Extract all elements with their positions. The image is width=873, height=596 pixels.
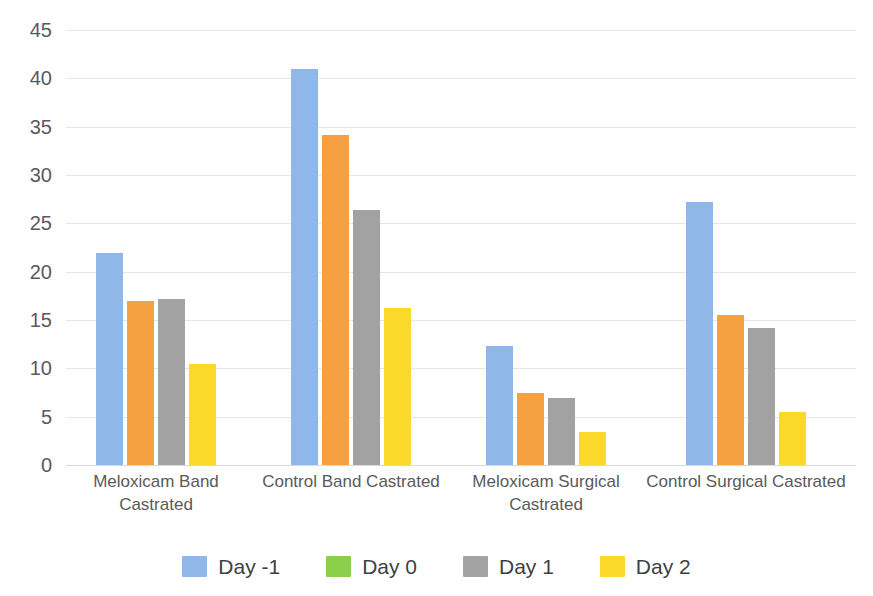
bar-group bbox=[686, 30, 810, 465]
bar bbox=[748, 328, 775, 465]
legend-swatch-icon bbox=[600, 556, 625, 577]
bar-group bbox=[486, 30, 610, 465]
bar bbox=[322, 135, 349, 465]
chart-legend: Day -1Day 0Day 1Day 2 bbox=[0, 556, 873, 577]
x-axis-group-label-line: Control Surgical Castrated bbox=[646, 470, 846, 493]
legend-label: Day -1 bbox=[218, 556, 280, 577]
y-axis-tick-label: 40 bbox=[30, 68, 52, 88]
y-axis-tick-label: 35 bbox=[30, 117, 52, 137]
x-axis-group-label: Control Surgical Castrated bbox=[646, 470, 846, 493]
x-axis-group-label-line: Meloxicam Band Castrated bbox=[56, 470, 256, 516]
y-axis-tick-label: 5 bbox=[41, 407, 52, 427]
bar bbox=[189, 364, 216, 466]
bar bbox=[96, 253, 123, 465]
legend-item[interactable]: Day 0 bbox=[326, 556, 417, 577]
x-axis-group-label: Control Band Castrated bbox=[251, 470, 451, 493]
y-axis-tick-label: 45 bbox=[30, 20, 52, 40]
legend-item[interactable]: Day 2 bbox=[600, 556, 691, 577]
y-axis-tick-label: 15 bbox=[30, 310, 52, 330]
legend-label: Day 0 bbox=[362, 556, 417, 577]
bar bbox=[291, 69, 318, 465]
bar bbox=[717, 315, 744, 465]
x-axis-group-label: Meloxicam SurgicalCastrated bbox=[446, 470, 646, 516]
bar bbox=[353, 210, 380, 465]
bar bbox=[158, 299, 185, 465]
plot-area: 051015202530354045 bbox=[66, 30, 856, 465]
legend-item[interactable]: Day -1 bbox=[182, 556, 280, 577]
y-axis-tick-label: 0 bbox=[41, 455, 52, 475]
gridline: 0 bbox=[66, 465, 856, 466]
bar-groups bbox=[66, 30, 856, 465]
bar bbox=[127, 301, 154, 465]
bar bbox=[384, 308, 411, 465]
bar bbox=[548, 398, 575, 465]
y-axis-tick-label: 25 bbox=[30, 213, 52, 233]
legend-label: Day 1 bbox=[499, 556, 554, 577]
legend-label: Day 2 bbox=[636, 556, 691, 577]
x-axis-group-label-line: Castrated bbox=[446, 493, 646, 516]
legend-item[interactable]: Day 1 bbox=[463, 556, 554, 577]
bar-group bbox=[96, 30, 220, 465]
x-axis-group-label-line: Control Band Castrated bbox=[251, 470, 451, 493]
legend-swatch-icon bbox=[463, 556, 488, 577]
bar bbox=[486, 346, 513, 465]
x-axis-group-label-line: Meloxicam Surgical bbox=[446, 470, 646, 493]
x-axis-group-label: Meloxicam Band Castrated bbox=[56, 470, 256, 516]
bar-group bbox=[291, 30, 415, 465]
y-axis-tick-label: 10 bbox=[30, 358, 52, 378]
bar bbox=[579, 432, 606, 465]
y-axis-tick-label: 30 bbox=[30, 165, 52, 185]
x-axis-labels: Meloxicam Band CastratedControl Band Cas… bbox=[66, 470, 856, 526]
bar bbox=[779, 412, 806, 465]
bar-chart: 051015202530354045 Meloxicam Band Castra… bbox=[0, 0, 873, 596]
legend-swatch-icon bbox=[182, 556, 207, 577]
y-axis-tick-label: 20 bbox=[30, 262, 52, 282]
legend-swatch-icon bbox=[326, 556, 351, 577]
bar bbox=[686, 202, 713, 465]
bar bbox=[517, 393, 544, 465]
